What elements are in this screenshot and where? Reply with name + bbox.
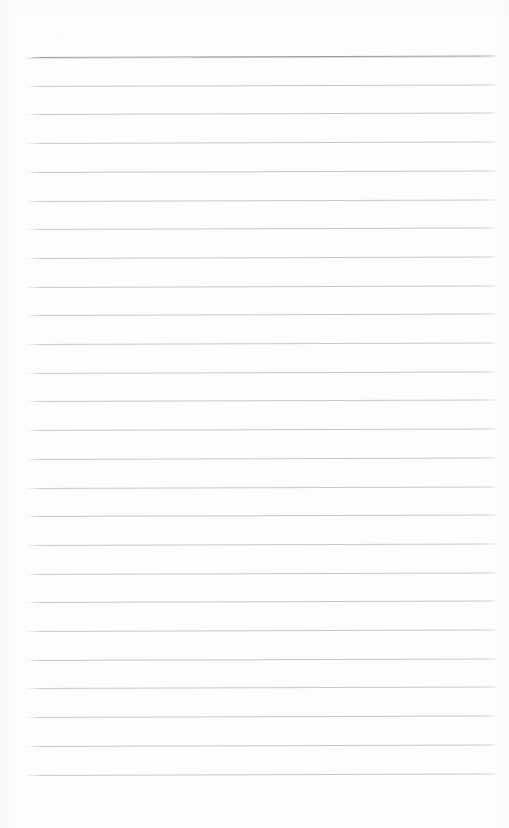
rule-line-1 — [26, 56, 495, 58]
rule-line-11 — [26, 343, 495, 345]
rule-line-18 — [26, 543, 495, 545]
rule-line-12 — [26, 371, 495, 373]
rule-line-6 — [26, 199, 495, 201]
rule-line-21 — [26, 630, 495, 632]
rule-line-24 — [26, 716, 495, 718]
rule-line-26 — [26, 773, 495, 775]
rule-line-17 — [26, 515, 495, 517]
rule-line-23 — [26, 687, 495, 689]
rule-line-7 — [26, 228, 495, 230]
rule-line-13 — [26, 400, 495, 402]
rule-line-3 — [26, 113, 495, 115]
rule-line-15 — [26, 457, 495, 459]
ruled-lines-layer — [0, 0, 509, 828]
rule-line-20 — [26, 601, 495, 603]
scanned-page — [0, 0, 509, 828]
rule-line-10 — [26, 314, 495, 316]
rule-line-2 — [26, 84, 495, 86]
rule-line-22 — [26, 658, 495, 660]
rule-line-5 — [26, 170, 495, 172]
rule-line-16 — [26, 486, 495, 488]
rule-line-14 — [26, 429, 495, 431]
rule-line-8 — [26, 256, 495, 258]
rule-line-25 — [26, 744, 495, 746]
rule-line-9 — [26, 285, 495, 287]
rule-line-19 — [26, 572, 495, 574]
rule-line-4 — [26, 142, 495, 144]
